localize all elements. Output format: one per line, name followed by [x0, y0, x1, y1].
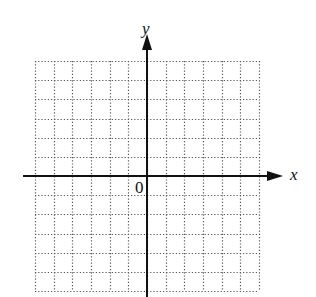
origin-label: 0 — [135, 179, 144, 196]
x-axis-arrow-icon — [267, 171, 283, 181]
x-axis-label: x — [290, 166, 298, 183]
axes — [23, 34, 283, 297]
y-axis-label: y — [142, 20, 150, 37]
coordinate-plane — [0, 0, 316, 297]
